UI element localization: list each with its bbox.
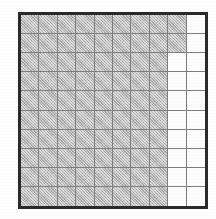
grid-cell[interactable] <box>39 111 57 130</box>
grid-cell[interactable] <box>113 53 131 72</box>
grid-cell[interactable] <box>187 168 205 187</box>
grid-cell[interactable] <box>150 149 168 168</box>
grid-cell[interactable] <box>113 149 131 168</box>
grid-cell[interactable] <box>76 130 94 149</box>
grid-cell[interactable] <box>21 72 39 91</box>
grid-cell[interactable] <box>113 187 131 206</box>
grid-cell[interactable] <box>21 187 39 206</box>
grid-cell[interactable] <box>187 53 205 72</box>
grid-cell[interactable] <box>58 111 76 130</box>
grid-cell[interactable] <box>150 111 168 130</box>
grid-cell[interactable] <box>76 111 94 130</box>
grid-cell[interactable] <box>131 149 149 168</box>
grid-cell[interactable] <box>150 187 168 206</box>
grid-cell[interactable] <box>187 15 205 34</box>
grid-cell[interactable] <box>21 130 39 149</box>
grid-cell[interactable] <box>58 34 76 53</box>
grid-cell[interactable] <box>168 187 186 206</box>
grid-cell[interactable] <box>187 187 205 206</box>
grid-cell[interactable] <box>39 168 57 187</box>
grid-cell[interactable] <box>131 111 149 130</box>
grid-cell[interactable] <box>95 130 113 149</box>
grid-cell[interactable] <box>76 187 94 206</box>
grid-cell[interactable] <box>95 72 113 91</box>
grid-cell[interactable] <box>150 130 168 149</box>
grid-cell[interactable] <box>21 149 39 168</box>
grid-cell[interactable] <box>39 34 57 53</box>
grid-cell[interactable] <box>58 15 76 34</box>
grid-cell[interactable] <box>150 72 168 91</box>
grid-cell[interactable] <box>131 130 149 149</box>
grid-cell[interactable] <box>95 187 113 206</box>
grid-cell[interactable] <box>39 15 57 34</box>
grid-cell[interactable] <box>131 72 149 91</box>
grid-cell[interactable] <box>21 53 39 72</box>
grid-cell[interactable] <box>76 53 94 72</box>
grid-cell[interactable] <box>39 149 57 168</box>
grid-cell[interactable] <box>95 111 113 130</box>
grid-cell[interactable] <box>150 168 168 187</box>
grid-cell[interactable] <box>39 53 57 72</box>
grid-cell[interactable] <box>39 72 57 91</box>
grid-cell[interactable] <box>131 15 149 34</box>
grid-cell[interactable] <box>21 34 39 53</box>
grid-cell[interactable] <box>76 149 94 168</box>
grid-cell[interactable] <box>150 91 168 110</box>
grid-cell[interactable] <box>113 72 131 91</box>
grid-cell[interactable] <box>58 130 76 149</box>
grid-cell[interactable] <box>113 91 131 110</box>
grid-cell[interactable] <box>168 53 186 72</box>
grid-cell[interactable] <box>168 149 186 168</box>
grid-cell[interactable] <box>168 34 186 53</box>
grid-cell[interactable] <box>113 111 131 130</box>
grid-cell[interactable] <box>95 34 113 53</box>
grid-cell[interactable] <box>187 72 205 91</box>
grid-cell[interactable] <box>58 91 76 110</box>
grid-cell[interactable] <box>187 149 205 168</box>
grid-cell[interactable] <box>95 168 113 187</box>
grid-cell[interactable] <box>58 149 76 168</box>
grid-cell[interactable] <box>113 34 131 53</box>
grid-cell[interactable] <box>131 168 149 187</box>
grid-cell[interactable] <box>95 15 113 34</box>
grid-cell[interactable] <box>39 187 57 206</box>
grid-cell[interactable] <box>76 72 94 91</box>
grid-cell[interactable] <box>168 91 186 110</box>
grid-cell[interactable] <box>131 34 149 53</box>
grid-cell[interactable] <box>58 168 76 187</box>
grid-cell[interactable] <box>168 130 186 149</box>
grid-cell[interactable] <box>168 168 186 187</box>
grid-cell[interactable] <box>113 168 131 187</box>
grid-cell[interactable] <box>131 91 149 110</box>
grid-cell[interactable] <box>187 130 205 149</box>
grid-cell[interactable] <box>76 168 94 187</box>
grid-cell[interactable] <box>21 111 39 130</box>
grid-cell[interactable] <box>95 149 113 168</box>
grid-cell[interactable] <box>21 91 39 110</box>
grid-cell[interactable] <box>21 15 39 34</box>
grid-cell[interactable] <box>168 111 186 130</box>
grid-cell[interactable] <box>58 72 76 91</box>
grid-cell[interactable] <box>187 91 205 110</box>
grid-cell[interactable] <box>168 15 186 34</box>
grid-cell[interactable] <box>113 130 131 149</box>
grid-cell[interactable] <box>131 187 149 206</box>
grid-cell[interactable] <box>58 53 76 72</box>
grid-cell[interactable] <box>58 187 76 206</box>
grid-cell[interactable] <box>113 15 131 34</box>
grid-cell[interactable] <box>150 53 168 72</box>
grid-cell[interactable] <box>95 91 113 110</box>
grid-cell[interactable] <box>39 91 57 110</box>
grid-cell[interactable] <box>150 15 168 34</box>
grid-cell[interactable] <box>95 53 113 72</box>
grid-cell[interactable] <box>76 15 94 34</box>
grid-cell[interactable] <box>187 111 205 130</box>
grid-cell[interactable] <box>76 34 94 53</box>
grid-cell[interactable] <box>187 34 205 53</box>
grid-cell[interactable] <box>21 168 39 187</box>
grid-cell[interactable] <box>168 72 186 91</box>
grid-cell[interactable] <box>76 91 94 110</box>
grid-cell[interactable] <box>150 34 168 53</box>
grid-cell[interactable] <box>39 130 57 149</box>
grid-cell[interactable] <box>131 53 149 72</box>
